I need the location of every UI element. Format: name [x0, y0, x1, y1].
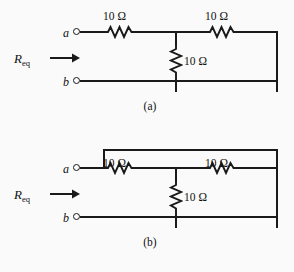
circuit-panel-b: Req a b 10 Ω 10 Ω [0, 136, 294, 272]
wire-top-node-to-r3-b [176, 167, 206, 169]
terminal-label-b-bottom: b [63, 212, 69, 224]
resistor-value-series-left-a: 10 Ω [103, 11, 126, 23]
terminal-label-a-top: a [63, 27, 69, 39]
circuit-panel-a: Req a b 10 Ω 10 Ω [0, 0, 294, 136]
req-label-b: Req [14, 188, 30, 201]
wire-top-r1-to-node-b [138, 167, 176, 169]
panel-caption-b: (b) [130, 237, 170, 249]
wire-shunt-top-a [175, 31, 177, 46]
wire-top-r1-to-node-a [138, 31, 176, 33]
terminal-a [73, 28, 80, 35]
resistor-value-series-right-b: 10 Ω [205, 158, 228, 170]
figure-canvas: Req a b 10 Ω 10 Ω [0, 0, 294, 272]
wire-top-r3-to-corner-b [240, 167, 278, 169]
resistor-value-shunt-middle-a: 10 Ω [184, 56, 207, 68]
req-arrow-icon-b [50, 188, 80, 200]
terminal-b [73, 77, 80, 84]
wire-top-a-to-r1 [80, 31, 104, 33]
resistor-value-shunt-middle-b: 10 Ω [184, 192, 207, 204]
wire-top-node-to-r3-a [176, 31, 206, 33]
terminal-label-b-top: b [63, 76, 69, 88]
resistor-shunt-middle-a [169, 45, 183, 79]
req-label-a: Req [14, 52, 30, 65]
wire-bottom-rail-a [80, 80, 278, 82]
req-arrow-icon-a [50, 52, 80, 64]
resistor-series-right-a [206, 25, 240, 39]
panel-caption-a: (a) [130, 101, 170, 113]
wire-bypass-top-b [103, 149, 278, 151]
terminal-b-b [73, 213, 80, 220]
resistor-series-left-a [104, 25, 138, 39]
wire-shunt-top-b [175, 167, 177, 182]
wire-top-r3-to-corner-a [240, 31, 278, 33]
wire-right-short-a [276, 31, 278, 92]
terminal-label-a-bottom: a [63, 163, 69, 175]
wire-top-a-to-r1-b [80, 167, 104, 169]
resistor-shunt-middle-b [169, 181, 183, 215]
wire-bottom-rail-b [80, 216, 278, 218]
resistor-value-series-right-a: 10 Ω [205, 11, 228, 23]
resistor-value-series-left-b: 10 Ω [103, 158, 126, 170]
terminal-a-b [73, 164, 80, 171]
